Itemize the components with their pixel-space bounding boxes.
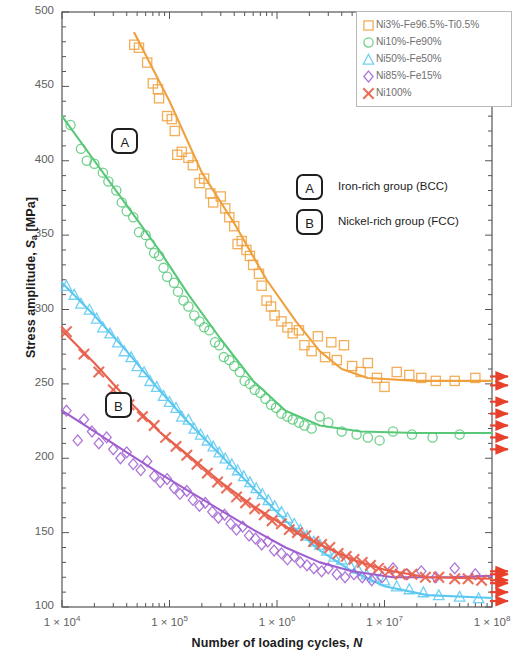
data-point [364,71,373,82]
y-tick-label: 150 [14,525,54,537]
y-tick-label: 100 [14,599,54,611]
annotation-badge-b: B [105,392,132,418]
sn-fatigue-chart: 100150200250300350400450500 1 × 1041 × 1… [0,0,520,662]
y-tick-label: 200 [14,450,54,462]
key-label-b: Nickel-rich group (FCC) [338,215,459,227]
legend-label: Ni3%-Fe96.5%-Ti0.5% [376,18,479,31]
legend-item[interactable]: Ni3%-Fe96.5%-Ti0.5% [361,16,505,33]
x-tick-label: 1 × 105 [135,614,205,628]
data-point [363,54,373,64]
annotation-badge-a: A [111,128,138,154]
legend-label: Ni50%-Fe50% [376,52,442,65]
legend-marker-diamond-icon [361,69,376,82]
x-axis-title: Number of loading cycles, N [62,636,492,650]
x-tick-label: 1 × 108 [457,614,520,628]
legend-marker-circle-icon [361,35,376,48]
legend-marker-cross-icon [361,86,376,99]
key-badge-a: A [296,174,323,200]
legend-label: Ni85%-Fe15% [376,69,442,82]
x-tick-label: 1 × 107 [350,614,420,628]
x-tick-label: 1 × 104 [27,614,97,628]
y-tick-label: 500 [14,4,54,16]
legend-marker-triangle-icon [361,52,376,65]
legend-item[interactable]: Ni100% [361,84,505,101]
legend-label: Ni100% [376,86,412,99]
y-tick-label: 450 [14,78,54,90]
legend-item[interactable]: Ni10%-Fe90% [361,33,505,50]
data-point [364,21,373,30]
legend: Ni3%-Fe96.5%-Ti0.5%Ni10%-Fe90%Ni50%-Fe50… [356,11,512,107]
legend-item[interactable]: Ni85%-Fe15% [361,67,505,84]
y-axis-title: Stress amplitude, Sa [MPa] [24,163,39,393]
x-tick-label: 1 × 106 [242,614,312,628]
legend-label: Ni10%-Fe90% [376,35,442,48]
legend-item[interactable]: Ni50%-Fe50% [361,50,505,67]
key-label-a: Iron-rich group (BCC) [338,180,448,192]
legend-marker-square-icon [361,18,376,31]
key-badge-b: B [296,209,323,235]
data-point [364,38,373,47]
